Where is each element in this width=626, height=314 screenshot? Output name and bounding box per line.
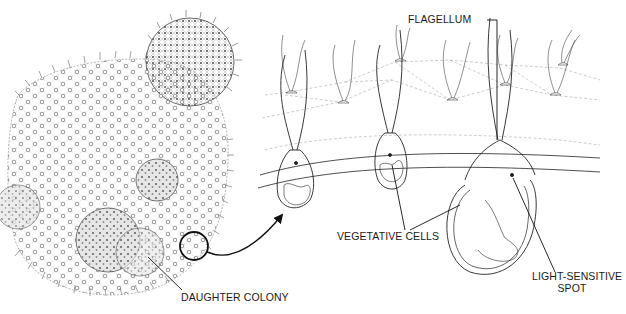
label-light-sensitive-line2: SPOT bbox=[532, 282, 612, 294]
label-light-sensitive-line1: LIGHT-SENSITIVE bbox=[532, 270, 612, 282]
daughter-colony-3 bbox=[116, 228, 164, 276]
vegetative-cell-2 bbox=[375, 30, 407, 189]
volvox-diagram bbox=[0, 0, 626, 314]
main-colony bbox=[0, 51, 234, 296]
label-daughter-colony: DAUGHTER COLONY bbox=[181, 291, 289, 303]
daughter-colony-4 bbox=[0, 185, 40, 229]
daughter-colony-1 bbox=[136, 159, 178, 201]
vegetative-cell-1 bbox=[277, 50, 314, 208]
vegetative-cell-3 bbox=[447, 18, 536, 274]
label-flagellum: FLAGELLUM bbox=[408, 13, 471, 25]
label-vegetative-cells: VEGETATIVE CELLS bbox=[337, 230, 439, 242]
label-light-sensitive-spot: LIGHT-SENSITIVE SPOT bbox=[532, 270, 612, 294]
